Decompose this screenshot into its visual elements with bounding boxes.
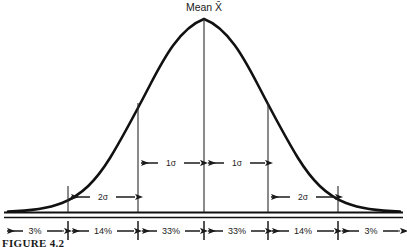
seg-right-3-label: 3%: [364, 226, 377, 236]
minus-1-sigma-label: 1σ: [166, 158, 177, 168]
distribution-canvas: Mean X̄ 1σ 1σ 2σ 2σ 3% 14% 33% 33% 14% 3…: [0, 0, 407, 247]
seg-left-33-label: 33%: [162, 226, 180, 236]
plus-2-sigma-label: 2σ: [298, 192, 309, 202]
normal-distribution-figure: Mean X̄ 1σ 1σ 2σ 2σ 3% 14% 33% 33% 14% 3…: [0, 0, 407, 247]
figure-caption: FIGURE 4.2: [2, 237, 64, 247]
plus-1-sigma-label: 1σ: [232, 158, 243, 168]
seg-right-33-label: 33%: [228, 226, 246, 236]
mean-label: Mean X̄: [186, 1, 222, 13]
seg-left-3-label: 3%: [28, 226, 41, 236]
minus-2-sigma-label: 2σ: [98, 192, 109, 202]
seg-right-14-label: 14%: [294, 226, 312, 236]
seg-left-14-label: 14%: [94, 226, 112, 236]
